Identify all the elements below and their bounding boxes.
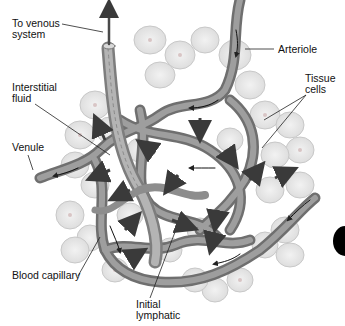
label-arteriole: Arteriole [278,44,317,55]
label-blood-capillary: Blood capillary [12,270,80,281]
label-venule: Venule [12,142,44,153]
label-tissue-cells: Tissue cells [305,73,336,95]
label-to-venous-system: To venous system [12,18,60,40]
label-interstitial-fluid: Interstitial fluid [12,82,57,104]
diagram-canvas: To venous system Arteriole Tissue cells … [0,0,345,326]
label-initial-lymphatic: Initial lymphatic [136,299,180,321]
edge-tab-marker [333,226,345,256]
